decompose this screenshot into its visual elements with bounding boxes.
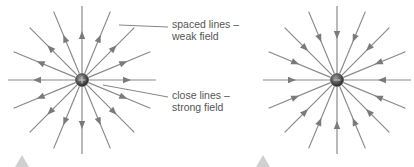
annotation-weak-line1: spaced lines –	[172, 18, 239, 30]
leader-line-strong	[103, 85, 168, 97]
annotation-strong-field: close lines – strong field	[172, 89, 230, 113]
negative-charge	[331, 74, 344, 87]
annotation-weak-line2: weak field	[172, 30, 239, 42]
triangle-marker-left	[15, 155, 29, 167]
positive-charge	[76, 74, 89, 87]
leader-line-weak	[119, 25, 168, 27]
annotation-weak-field: spaced lines – weak field	[172, 18, 239, 42]
annotation-strong-line2: strong field	[172, 101, 230, 113]
annotation-strong-line1: close lines –	[172, 89, 230, 101]
triangle-marker-right	[256, 155, 270, 167]
